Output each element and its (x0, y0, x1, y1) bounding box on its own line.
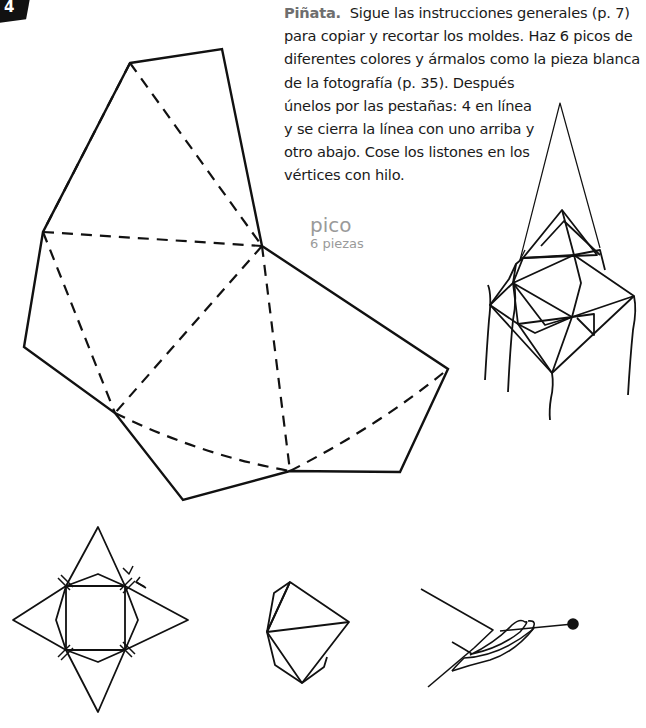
folded-star-diagram (13, 527, 188, 712)
needle-thread-diagram (421, 589, 578, 687)
fold-lines (43, 63, 448, 471)
pico-pattern-diagram (24, 49, 448, 500)
folded-pico-diagram (267, 582, 349, 683)
pinata-assembled-diagram (485, 103, 635, 420)
